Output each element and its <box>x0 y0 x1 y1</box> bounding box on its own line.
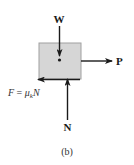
friction-N: N <box>32 87 41 98</box>
weight-label: W <box>54 13 65 25</box>
free-body-diagram: W P F = μkN N (b) <box>0 0 134 165</box>
push-label: P <box>116 55 123 67</box>
friction-label: F = μkN <box>7 87 41 100</box>
normal-label: N <box>64 121 72 133</box>
figure-caption: (b) <box>61 146 73 158</box>
friction-equals: = <box>14 87 25 98</box>
center-of-mass-dot <box>58 58 61 61</box>
